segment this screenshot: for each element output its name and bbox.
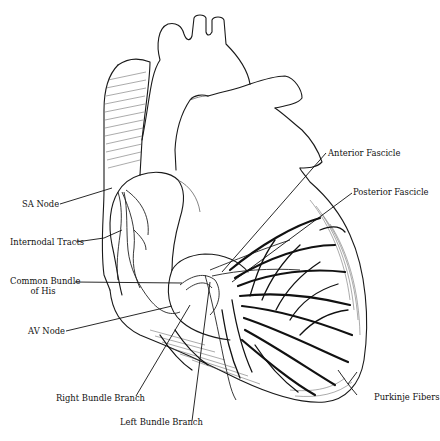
- label-anterior-fascicle: Anterior Fascicle: [328, 148, 400, 158]
- label-av-node: AV Node: [28, 326, 65, 336]
- label-purkinje-fibers: Purkinje Fibers: [374, 392, 440, 402]
- leader-anterior-fascicle: [222, 153, 326, 272]
- leader-av-node: [66, 306, 172, 331]
- leader-common-bundle: [75, 282, 182, 283]
- leader-purkinje-fibers: [338, 370, 357, 395]
- leader-internodal-tracts-2: [104, 230, 122, 238]
- label-left-bundle-branch: Left Bundle Branch: [120, 417, 203, 427]
- heart-illustration: [0, 0, 440, 441]
- label-common-bundle-line1: Common Bundle: [10, 276, 76, 286]
- label-posterior-fascicle: Posterior Fascicle: [353, 187, 429, 197]
- aorta: [142, 15, 250, 140]
- label-right-bundle-branch: Right Bundle Branch: [56, 393, 145, 403]
- right-atrium: [110, 172, 200, 295]
- label-internodal-tracts: Internodal Tracts: [10, 237, 84, 247]
- internodal-tracts: [117, 190, 180, 314]
- label-common-bundle-his: Common Bundle of His: [10, 276, 76, 296]
- pulmonary-artery: [175, 76, 302, 170]
- label-sa-node: SA Node: [22, 199, 59, 209]
- label-common-bundle-line2: of His: [10, 286, 76, 296]
- leader-posterior-fascicle: [232, 193, 352, 282]
- left-auricle: [275, 108, 322, 168]
- heart-conduction-diagram: SA Node Internodal Tracts Common Bundle …: [0, 0, 440, 441]
- leader-right-bundle-branch: [136, 305, 190, 396]
